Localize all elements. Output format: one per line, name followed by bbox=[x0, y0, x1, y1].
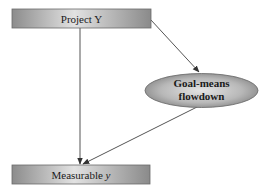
node-measurable-y[interactable]: Measurable y bbox=[12, 165, 150, 184]
node-project-y-label: Project Y bbox=[61, 13, 102, 25]
node-measurable-y-label: Measurable y bbox=[52, 169, 111, 181]
node-goal-means-line2: flowdown bbox=[179, 90, 225, 102]
edge-goal-means-to-measurable bbox=[83, 106, 199, 164]
node-project-y[interactable]: Project Y bbox=[12, 9, 151, 28]
node-goal-means-flowdown[interactable]: Goal-means flowdown bbox=[145, 74, 258, 108]
edge-project-to-goal-means bbox=[151, 20, 199, 72]
goal-means-diagram: Project Y Goal-means flowdown Measurable… bbox=[0, 0, 265, 190]
node-goal-means-line1: Goal-means bbox=[173, 77, 230, 89]
